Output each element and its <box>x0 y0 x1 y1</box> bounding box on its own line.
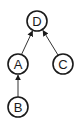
node-c-label: C <box>58 57 67 72</box>
edge-a-to-d <box>22 31 33 55</box>
node-b: B <box>8 97 28 117</box>
node-d-label: D <box>32 14 41 29</box>
node-d: D <box>27 11 47 31</box>
node-b-label: B <box>14 100 23 115</box>
graph-diagram: D A C B <box>0 0 80 132</box>
node-c: C <box>53 54 73 74</box>
edge-c-to-d <box>43 31 58 56</box>
node-a: A <box>8 54 28 74</box>
node-a-label: A <box>14 57 23 72</box>
